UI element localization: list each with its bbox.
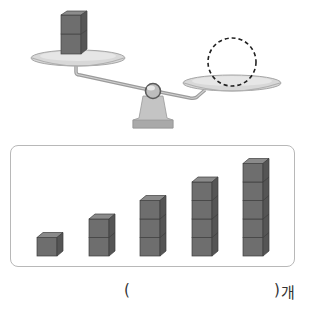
cube <box>192 219 212 238</box>
cube <box>89 238 109 257</box>
answer-unit: 개 <box>281 281 295 302</box>
cube <box>192 238 212 257</box>
cube <box>192 182 212 201</box>
cube <box>192 201 212 220</box>
cube <box>140 201 160 220</box>
cube <box>243 182 263 201</box>
cube <box>37 238 57 257</box>
cube <box>243 201 263 220</box>
cube-stack-1 <box>37 233 63 257</box>
cube <box>89 219 109 238</box>
cube <box>243 238 263 257</box>
cube-stack-5 <box>243 159 269 257</box>
cube-stack-2 <box>89 214 115 256</box>
answer-open-paren: ( <box>124 281 130 299</box>
answer-close-paren: ) <box>274 281 280 299</box>
cube <box>243 219 263 238</box>
cube-stack-4 <box>192 177 218 256</box>
cube-stacks <box>0 0 314 270</box>
cube <box>140 219 160 238</box>
cube <box>140 238 160 257</box>
answer-blank[interactable] <box>136 281 270 301</box>
cube-stack-3 <box>140 196 166 257</box>
cube <box>243 164 263 183</box>
